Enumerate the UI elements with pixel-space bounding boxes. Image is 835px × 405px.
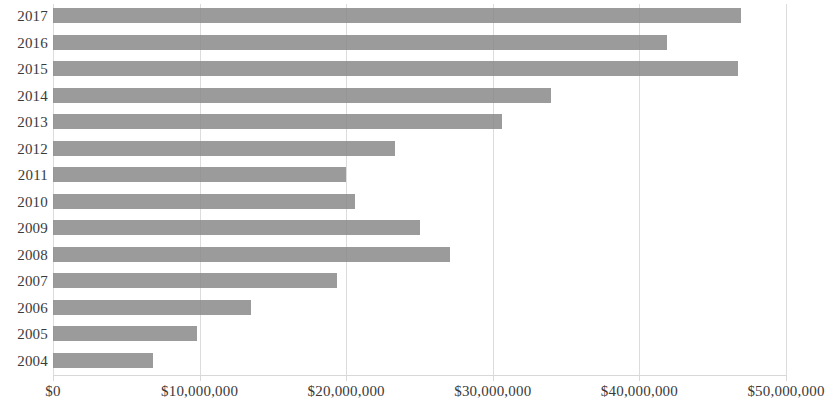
axis-tick: [786, 376, 787, 381]
gridline: [786, 4, 787, 375]
category-label: 2005: [4, 327, 48, 342]
x-axis-line: [53, 375, 787, 376]
x-tick-label: $40,000,000: [601, 383, 678, 399]
bar: [53, 247, 450, 262]
x-tick-label: $10,000,000: [161, 383, 238, 399]
bar: [53, 35, 667, 50]
bar: [53, 326, 197, 341]
bar: [53, 220, 420, 235]
x-tick-label: $50,000,000: [747, 383, 824, 399]
gridline: [493, 4, 494, 375]
x-tick-label: $20,000,000: [308, 383, 385, 399]
bar: [53, 353, 153, 368]
x-tick-label: $30,000,000: [454, 383, 531, 399]
category-label: 2017: [4, 9, 48, 24]
bar: [53, 8, 741, 23]
bar: [53, 141, 395, 156]
category-label: 2007: [4, 274, 48, 289]
bar: [53, 300, 251, 315]
category-label: 2008: [4, 248, 48, 263]
category-label: 2011: [4, 168, 48, 183]
axis-tick: [346, 376, 347, 381]
bar-chart: 2017201620152014201320122011201020092008…: [0, 0, 835, 405]
gridline: [639, 4, 640, 375]
category-label: 2014: [4, 89, 48, 104]
category-label: 2006: [4, 301, 48, 316]
bar: [53, 88, 551, 103]
category-label: 2010: [4, 195, 48, 210]
gridline: [200, 4, 201, 375]
axis-tick: [200, 376, 201, 381]
axis-tick: [53, 376, 54, 381]
bar: [53, 114, 502, 129]
gridline: [346, 4, 347, 375]
bar: [53, 273, 337, 288]
plot-area: [53, 4, 786, 375]
bar: [53, 61, 738, 76]
category-label: 2013: [4, 115, 48, 130]
x-tick-label: $0: [45, 383, 60, 399]
category-label: 2016: [4, 36, 48, 51]
bar: [53, 167, 346, 182]
category-label: 2004: [4, 354, 48, 369]
category-label: 2012: [4, 142, 48, 157]
bar: [53, 194, 355, 209]
category-label: 2009: [4, 221, 48, 236]
axis-tick: [639, 376, 640, 381]
axis-tick: [493, 376, 494, 381]
gridline: [53, 4, 54, 375]
category-label: 2015: [4, 62, 48, 77]
